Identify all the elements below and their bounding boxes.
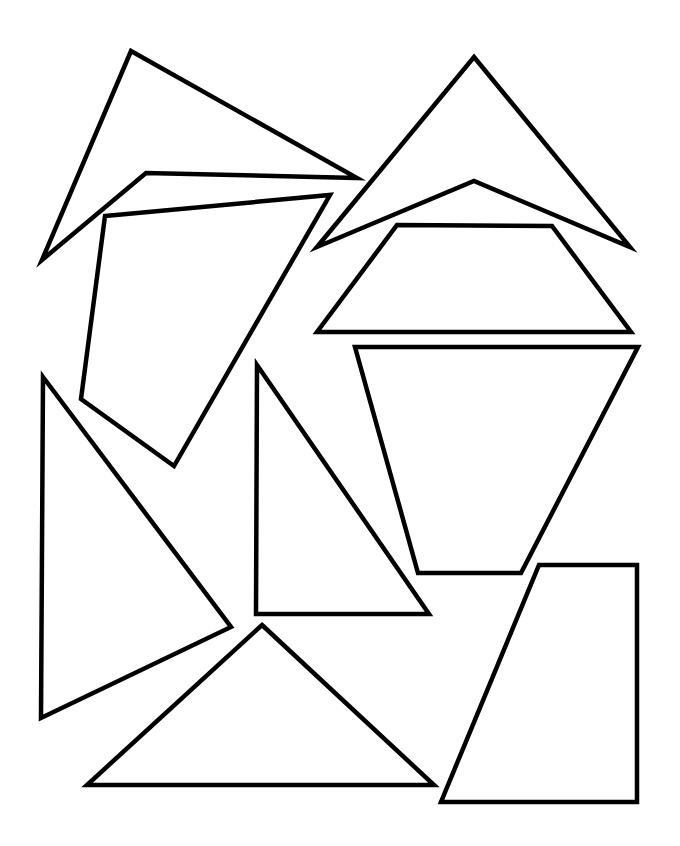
trapezoid-upper-right — [317, 225, 631, 332]
shapes-drawing — [0, 0, 680, 846]
puzzle-shapes-canvas — [0, 0, 680, 846]
right-trapezoid-bottom-right — [441, 565, 637, 802]
inverted-trapezoid-right — [355, 347, 638, 573]
concave-kite-top-right — [317, 57, 630, 247]
